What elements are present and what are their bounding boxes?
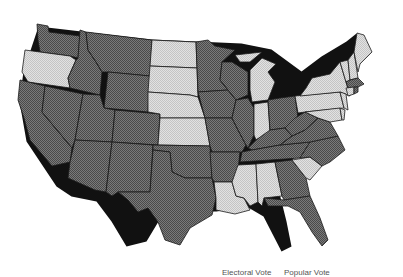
state-co — [112, 110, 160, 145]
state-ia — [198, 90, 236, 118]
state-me — [354, 33, 372, 72]
legend-popular-vote: Popular Vote — [284, 268, 330, 277]
state-wy — [104, 72, 150, 112]
state-ks — [158, 118, 210, 146]
state-ri — [354, 87, 358, 94]
state-nd — [150, 40, 197, 68]
state-nm — [106, 142, 153, 196]
legend-electoral-vote: Electoral Vote — [222, 268, 271, 277]
